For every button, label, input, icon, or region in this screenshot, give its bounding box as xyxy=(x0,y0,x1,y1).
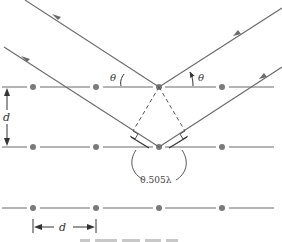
bragg-diagram: 0.505λ θ θ d d xyxy=(0,0,282,242)
horizontal-d-label: d xyxy=(59,221,66,234)
path-difference-label: 0.505λ xyxy=(140,175,172,185)
perpendicular-dashes xyxy=(133,87,185,131)
incident-ray-lower xyxy=(4,47,159,147)
right-angle-markers xyxy=(130,131,188,139)
vertical-d-label: d xyxy=(3,111,10,124)
theta-incident-label: θ xyxy=(110,72,116,83)
theta-reflected-label: θ xyxy=(198,72,204,83)
reflected-ray-lower xyxy=(159,67,282,147)
theta-incident-arc xyxy=(121,74,124,86)
theta-reflected-arrow xyxy=(190,72,193,86)
